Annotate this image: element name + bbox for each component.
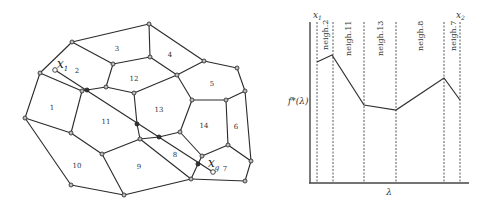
goal-point-label: xg <box>208 156 220 172</box>
x2-label: x2 <box>456 10 465 21</box>
x1-label: x1 <box>313 10 322 21</box>
lambda-chart: neigh.2 neigh.11 neigh.13 neigh.8 neigh.… <box>287 10 469 197</box>
neigh-label-11: neigh.11 <box>344 21 353 56</box>
region-graph: 1 2 3 4 5 6 7 8 9 10 11 12 13 14 x1 xg <box>23 22 253 197</box>
neigh-label-7: neigh.7 <box>449 21 458 51</box>
neighborhood-labels: neigh.2 neigh.11 neigh.13 neigh.8 neigh.… <box>321 20 458 56</box>
region-label-6: 6 <box>234 123 239 131</box>
neigh-label-2: neigh.2 <box>321 20 330 50</box>
neigh-label-8: neigh.8 <box>416 21 425 51</box>
region-label-14: 14 <box>200 122 209 130</box>
figure: 1 2 3 4 5 6 7 8 9 10 11 12 13 14 x1 xg <box>0 0 489 207</box>
y-axis-label: f*(λ) <box>287 96 309 106</box>
region-label-11: 11 <box>102 118 111 126</box>
neighborhood-boundaries <box>317 22 460 183</box>
region-label-8: 8 <box>173 151 177 159</box>
region-label-4: 4 <box>168 51 173 59</box>
region-label-2: 2 <box>75 67 79 75</box>
straight-path <box>55 70 213 172</box>
region-label-1: 1 <box>50 104 54 112</box>
region-label-5: 5 <box>210 80 214 88</box>
f-star-curve <box>317 55 460 110</box>
region-label-3: 3 <box>115 45 119 53</box>
region-label-9: 9 <box>137 163 141 171</box>
region-labels: 1 2 3 4 5 6 7 8 9 10 11 12 13 14 <box>50 45 239 173</box>
region-label-12: 12 <box>130 75 139 83</box>
neigh-label-13: neigh.13 <box>376 21 385 56</box>
start-point-label: x1 <box>57 57 68 73</box>
region-label-10: 10 <box>73 162 82 170</box>
region-label-7: 7 <box>223 165 227 173</box>
region-label-13: 13 <box>155 106 164 114</box>
x-axis-label: λ <box>385 187 392 197</box>
